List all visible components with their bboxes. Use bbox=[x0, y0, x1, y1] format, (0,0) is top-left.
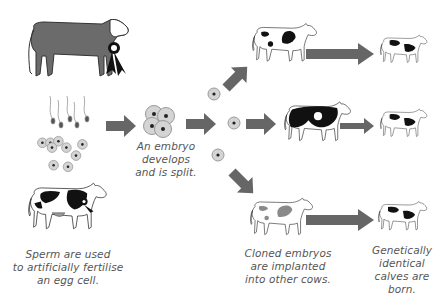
bull-illustration bbox=[22, 14, 132, 94]
arrow-icon bbox=[246, 112, 278, 136]
caption-step3: Cloned embryos are implanted into other … bbox=[236, 247, 340, 286]
arrow-icon bbox=[340, 116, 376, 136]
arrow-icon bbox=[106, 114, 138, 138]
sperm-group bbox=[40, 96, 90, 136]
calf-3 bbox=[378, 200, 428, 234]
calf-1 bbox=[380, 34, 428, 66]
caption-step1: Sperm are used to artificially fertilise… bbox=[8, 248, 128, 287]
caption-step2: An embryo develops and is split. bbox=[124, 140, 208, 179]
split-cell-2 bbox=[226, 115, 242, 131]
surrogate-cow-3 bbox=[250, 196, 314, 240]
embryo-cluster bbox=[142, 104, 178, 140]
calf-2 bbox=[380, 108, 428, 140]
arrow-icon bbox=[186, 112, 218, 136]
arrow-icon bbox=[306, 42, 376, 66]
egg-cells bbox=[36, 138, 96, 174]
split-cell-1 bbox=[206, 86, 222, 102]
arrow-icon bbox=[306, 208, 376, 232]
arrow-icon bbox=[222, 58, 256, 92]
caption-step4: Genetically identical calves are born. bbox=[360, 244, 444, 296]
split-cell-3 bbox=[210, 147, 226, 163]
cow-illustration bbox=[28, 180, 108, 236]
